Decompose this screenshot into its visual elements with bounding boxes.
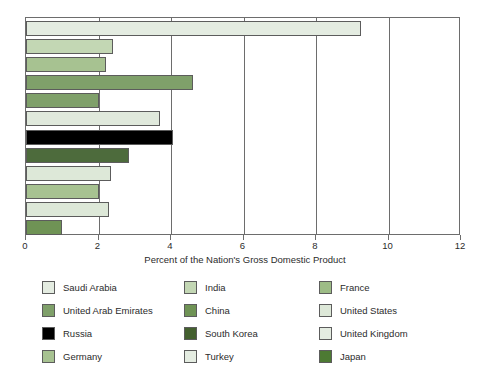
legend-swatch-icon (319, 304, 332, 317)
legend-item[interactable]: Turkey (184, 347, 234, 365)
legend-swatch-icon (184, 281, 197, 294)
legend-item[interactable]: India (184, 278, 226, 296)
legend-item-label: United Arab Emirates (63, 305, 153, 316)
legend-swatch-icon (42, 350, 55, 363)
legend-item[interactable]: Saudi Arabia (42, 278, 117, 296)
legend-swatch-icon (184, 304, 197, 317)
legend-swatch-icon (184, 327, 197, 340)
legend-item-label: Japan (340, 351, 366, 362)
x-axis-tick-labels: 024681012 (0, 240, 490, 254)
legend-item[interactable]: Germany (42, 347, 102, 365)
legend-swatch-icon (42, 281, 55, 294)
bar (26, 75, 193, 90)
legend-item[interactable]: France (319, 278, 370, 296)
bar-chart-figure: 024681012 Percent of the Nation's Gross … (0, 0, 490, 380)
chart-legend: Saudi ArabiaUnited Arab EmiratesRussiaGe… (42, 278, 452, 366)
legend-swatch-icon (42, 327, 55, 340)
bar (26, 184, 99, 199)
legend-swatch-icon (42, 304, 55, 317)
bar (26, 148, 129, 163)
plot-area (25, 17, 460, 235)
legend-item-label: Germany (63, 351, 102, 362)
bars-group (26, 18, 459, 234)
bar (26, 130, 173, 145)
bar (26, 202, 109, 217)
x-axis-tick-label: 6 (240, 240, 245, 251)
legend-item[interactable]: China (184, 301, 230, 319)
bar (26, 93, 99, 108)
legend-swatch-icon (184, 350, 197, 363)
legend-item-label: France (340, 282, 370, 293)
x-axis-tick-label: 4 (167, 240, 172, 251)
legend-item[interactable]: South Korea (184, 324, 258, 342)
x-axis-tick-label: 0 (22, 240, 27, 251)
legend-item-label: Saudi Arabia (63, 282, 117, 293)
legend-item[interactable]: United Arab Emirates (42, 301, 153, 319)
bar (26, 166, 111, 181)
x-axis-tick-label: 2 (95, 240, 100, 251)
legend-item-label: India (205, 282, 226, 293)
legend-item-label: China (205, 305, 230, 316)
bar (26, 39, 113, 54)
legend-swatch-icon (319, 281, 332, 294)
x-axis-tick-label: 12 (455, 240, 466, 251)
legend-item-label: United States (340, 305, 397, 316)
legend-item[interactable]: United Kingdom (319, 324, 408, 342)
bar (26, 111, 160, 126)
legend-swatch-icon (319, 327, 332, 340)
legend-item[interactable]: United States (319, 301, 397, 319)
legend-item[interactable]: Russia (42, 324, 92, 342)
legend-item-label: Turkey (205, 351, 234, 362)
x-axis-tick-label: 8 (312, 240, 317, 251)
legend-item-label: Russia (63, 328, 92, 339)
legend-item[interactable]: Japan (319, 347, 366, 365)
legend-item-label: South Korea (205, 328, 258, 339)
legend-item-label: United Kingdom (340, 328, 408, 339)
legend-swatch-icon (319, 350, 332, 363)
x-axis-tick-label: 10 (382, 240, 393, 251)
bar (26, 21, 361, 36)
x-axis-title: Percent of the Nation's Gross Domestic P… (0, 254, 490, 265)
bar (26, 220, 62, 235)
bar (26, 57, 106, 72)
